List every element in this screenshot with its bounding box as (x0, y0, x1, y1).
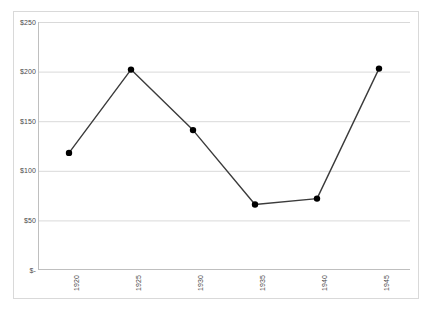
x-tick-label: 1940 (321, 275, 328, 291)
x-tick-label: 1945 (383, 275, 390, 291)
line-chart: $250 $200 $150 $100 $50 $- (0, 0, 432, 312)
x-tick-label: 1925 (135, 275, 142, 291)
x-tick-label: 1920 (73, 275, 80, 291)
x-tick-label: 1935 (259, 275, 266, 291)
x-axis-tick-labels: 1920 1925 1930 1935 1940 1945 (0, 0, 432, 312)
x-tick-label: 1930 (197, 275, 204, 291)
